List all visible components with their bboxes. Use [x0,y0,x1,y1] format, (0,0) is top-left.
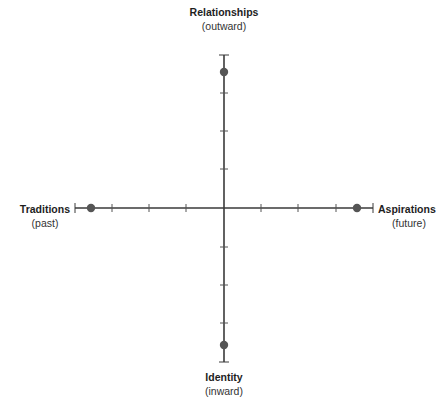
pole-right-name: Aspirations [378,202,444,216]
point-aspirations [353,204,361,212]
point-traditions [87,204,95,212]
pole-top-sub: (outward) [174,19,274,33]
pole-label-left: Traditions (past) [6,202,70,230]
pole-bottom-sub: (inward) [174,384,274,398]
pole-label-bottom: Identity (inward) [174,370,274,398]
point-relationships [220,68,228,76]
pole-top-name: Relationships [174,5,274,19]
pole-right-sub: (future) [378,216,444,230]
pole-label-top: Relationships (outward) [174,5,274,33]
pole-left-name: Traditions [6,202,70,216]
pole-label-right: Aspirations (future) [378,202,444,230]
pole-bottom-name: Identity [174,370,274,384]
crossed-axes-diagram: Relationships (outward) Identity (inward… [0,0,447,406]
pole-left-sub: (past) [6,216,70,230]
point-identity [220,341,228,349]
